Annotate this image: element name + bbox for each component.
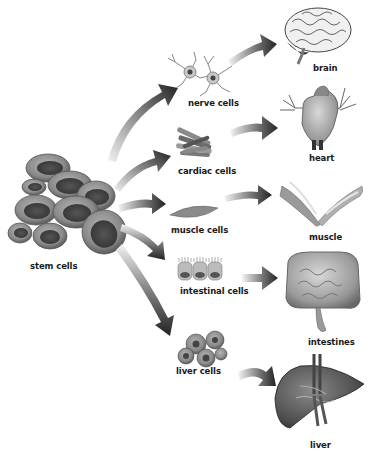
brain-icon: [285, 8, 351, 64]
muscle-cells-label: muscle cells: [171, 225, 228, 235]
arrow-liver-cells-to-liver: [238, 366, 276, 386]
arrow-stem-to-liver: [116, 244, 174, 336]
liver-cells-label: liver cells: [176, 366, 221, 376]
nerve-cells-label: nerve cells: [188, 98, 239, 108]
nerve-cells-icon: [168, 52, 232, 96]
intestines-label: intestines: [308, 337, 355, 347]
cardiac-cells-icon: [176, 127, 212, 157]
intestinal-cells-icon: [178, 257, 222, 280]
intestines-icon: [286, 252, 360, 332]
intestinal-cells-label: intestinal cells: [180, 286, 249, 296]
muscle-icon: [280, 182, 363, 226]
arrow-cardiac-to-heart: [230, 116, 278, 140]
heart-icon: [280, 86, 356, 150]
liver-label: liver: [310, 440, 331, 450]
stem-cells-cluster-icon: [8, 154, 126, 254]
muscle-cells-icon: [170, 206, 218, 217]
brain-label: brain: [313, 63, 337, 73]
arrow-stem-to-cardiac: [114, 150, 171, 192]
muscle-label: muscle: [309, 232, 342, 242]
stem-cells-label: stem cells: [30, 261, 77, 271]
arrow-stem-to-nerve: [108, 84, 178, 162]
stem-cell-diagram: stem cells nerve cells cardiac cells mus…: [0, 0, 378, 458]
arrow-muscle-to-muscle: [224, 185, 272, 205]
heart-label: heart: [309, 153, 334, 163]
arrow-stem-to-muscle: [118, 193, 166, 214]
liver-icon: [275, 354, 364, 428]
arrow-nerve-to-brain: [228, 34, 277, 66]
cardiac-cells-label: cardiac cells: [178, 166, 236, 176]
liver-cells-icon: [178, 331, 227, 367]
